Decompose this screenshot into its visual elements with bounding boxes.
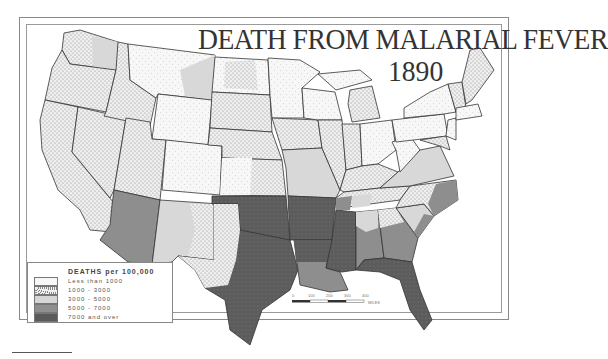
scale-bar xyxy=(292,300,364,303)
swatch-dark-gray xyxy=(34,313,58,322)
state-tennessee-west xyxy=(336,196,352,210)
state-wisconsin xyxy=(302,88,342,120)
state-new-york xyxy=(404,84,456,118)
state-south-dakota xyxy=(210,92,272,132)
legend-item-less-than-1000: Less than 1000 xyxy=(34,277,123,285)
scale-tick-400: 400 xyxy=(362,293,369,298)
state-colorado xyxy=(162,140,222,195)
state-ohio xyxy=(360,120,396,166)
map-year: 1890 xyxy=(388,54,443,88)
state-wyoming xyxy=(152,94,212,145)
legend: DEATHS per 100,000 Less than 1000 1000 -… xyxy=(27,262,173,323)
map-title: DEATH FROM MALARIAL FEVER xyxy=(198,22,608,56)
scale-unit: MILES xyxy=(368,300,380,305)
state-maine xyxy=(462,48,494,104)
state-louisiana-north xyxy=(294,240,332,262)
swatch-light-gray xyxy=(34,295,58,304)
scale-tick-300: 300 xyxy=(344,293,351,298)
legend-item-1000-3000: 1000 - 3000 xyxy=(34,286,111,294)
legend-item-3000-5000: 3000 - 5000 xyxy=(34,295,111,303)
state-arkansas xyxy=(288,196,336,240)
state-iowa xyxy=(272,118,322,150)
legend-item-5000-7000: 5000 - 7000 xyxy=(34,304,111,312)
bottom-rule xyxy=(12,352,72,353)
swatch-dense-dots xyxy=(34,286,58,295)
scale-tick-0: 0 xyxy=(292,293,294,298)
scale-tick-200: 200 xyxy=(326,293,333,298)
state-kansas-west xyxy=(220,158,252,195)
state-michigan-up xyxy=(318,70,372,90)
scale-tick-100: 100 xyxy=(308,293,315,298)
state-michigan xyxy=(348,86,380,122)
state-indiana xyxy=(342,124,362,170)
swatch-sparse-dots xyxy=(34,277,58,286)
state-north-dakota-west xyxy=(224,60,258,90)
state-tennessee-mid xyxy=(352,194,372,208)
legend-item-7000-and-over: 7000 and over xyxy=(34,313,119,321)
legend-title: DEATHS per 100,000 xyxy=(68,268,154,275)
swatch-mid-gray xyxy=(34,304,58,313)
state-new-jersey xyxy=(446,118,456,140)
